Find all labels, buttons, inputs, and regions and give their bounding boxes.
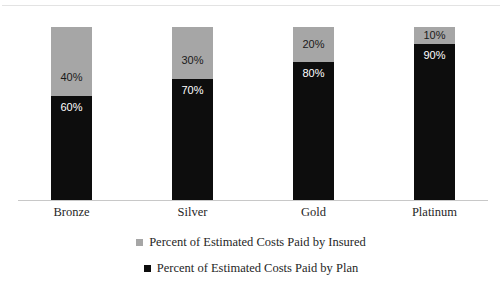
stacked-bar-chart: 40%60%30%70%20%80%10%90% BronzeSilverGol… — [0, 0, 502, 286]
bar-group[interactable]: 20%80% — [293, 27, 334, 200]
legend-label: Percent of Estimated Costs Paid by Plan — [157, 261, 358, 276]
legend-swatch-icon — [136, 239, 143, 246]
bar-segment-label-plan: 60% — [60, 102, 82, 113]
bar-segment-plan[interactable]: 80% — [293, 62, 334, 200]
bar-segment-plan[interactable]: 90% — [414, 44, 455, 200]
stacked-bar: 10%90% — [414, 27, 455, 200]
bar-group[interactable]: 30%70% — [172, 27, 213, 200]
stacked-bar: 30%70% — [172, 27, 213, 200]
bar-segment-label-insured: 40% — [60, 72, 82, 83]
plot-area: 40%60%30%70%20%80%10%90% — [0, 0, 502, 201]
legend-item[interactable]: Percent of Estimated Costs Paid by Plan — [0, 255, 502, 281]
bar-segment-insured[interactable]: 10% — [414, 27, 455, 44]
bar-segment-insured[interactable]: 20% — [293, 27, 334, 62]
stacked-bar: 20%80% — [293, 27, 334, 200]
bar-segment-label-insured: 10% — [423, 30, 445, 41]
bar-segment-label-plan: 80% — [302, 68, 324, 79]
bar-segment-insured[interactable]: 30% — [172, 27, 213, 79]
bar-segment-label-plan: 90% — [423, 50, 445, 61]
bar-segment-plan[interactable]: 60% — [51, 96, 92, 200]
bar-group[interactable]: 10%90% — [414, 27, 455, 200]
stacked-bar: 40%60% — [51, 27, 92, 200]
category-label-silver: Silver — [133, 205, 253, 220]
legend-label: Percent of Estimated Costs Paid by Insur… — [149, 235, 366, 250]
category-axis-labels: BronzeSilverGoldPlatinum — [0, 203, 502, 227]
category-label-platinum: Platinum — [375, 205, 495, 220]
bar-segment-insured[interactable]: 40% — [51, 27, 92, 96]
bar-segment-label-insured: 20% — [302, 39, 324, 50]
bar-segment-plan[interactable]: 70% — [172, 79, 213, 200]
category-label-gold: Gold — [254, 205, 374, 220]
bar-segment-label-insured: 30% — [181, 55, 203, 66]
chart-legend: Percent of Estimated Costs Paid by Insur… — [0, 229, 502, 281]
category-label-bronze: Bronze — [12, 205, 132, 220]
legend-item[interactable]: Percent of Estimated Costs Paid by Insur… — [0, 229, 502, 255]
legend-swatch-icon — [144, 265, 151, 272]
bar-group[interactable]: 40%60% — [51, 27, 92, 200]
bar-segment-label-plan: 70% — [181, 85, 203, 96]
category-axis-line — [18, 200, 488, 201]
